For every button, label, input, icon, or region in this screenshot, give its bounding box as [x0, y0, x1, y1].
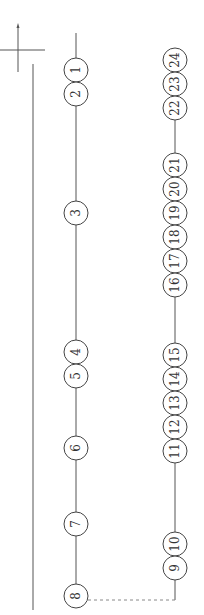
node-16: 16: [163, 273, 187, 297]
node-label: 18: [168, 229, 182, 244]
node-11: 11: [163, 439, 187, 463]
node-label: 5: [69, 372, 83, 380]
node-21: 21: [163, 153, 187, 177]
node-8: 8: [64, 584, 88, 608]
node-3: 3: [64, 201, 88, 225]
node-label: 15: [168, 347, 182, 362]
node-label: 4: [69, 348, 83, 356]
node-label: 6: [69, 444, 83, 452]
node-12: 12: [163, 415, 187, 439]
node-24: 24: [163, 48, 187, 72]
node-label: 10: [168, 536, 182, 551]
node-label: 2: [69, 90, 83, 98]
node-6: 6: [64, 436, 88, 460]
node-label: 12: [168, 419, 182, 434]
diagram-canvas: 12345678 2423222120191817161514131211109: [0, 0, 204, 615]
node-19: 19: [163, 201, 187, 225]
node-2: 2: [64, 82, 88, 106]
node-22: 22: [163, 96, 187, 120]
node-5: 5: [64, 364, 88, 388]
node-4: 4: [64, 340, 88, 364]
node-label: 14: [168, 371, 182, 387]
node-label: 16: [168, 277, 182, 292]
node-label: 3: [69, 209, 83, 217]
node-10: 10: [163, 532, 187, 556]
arrow-up-icon: [17, 23, 20, 28]
node-9: 9: [163, 556, 187, 580]
node-label: 21: [168, 157, 182, 172]
node-7: 7: [64, 512, 88, 536]
node-14: 14: [163, 367, 187, 391]
node-18: 18: [163, 225, 187, 249]
node-label: 9: [168, 564, 182, 572]
node-label: 17: [168, 253, 182, 268]
node-label: 8: [69, 592, 83, 600]
node-label: 24: [168, 52, 182, 68]
node-label: 19: [168, 205, 182, 220]
node-label: 1: [69, 66, 83, 74]
node-23: 23: [163, 72, 187, 96]
node-label: 22: [168, 100, 182, 115]
node-label: 20: [168, 181, 182, 196]
node-1: 1: [64, 58, 88, 82]
node-13: 13: [163, 391, 187, 415]
node-label: 13: [168, 395, 182, 410]
node-17: 17: [163, 249, 187, 273]
node-label: 7: [69, 520, 83, 528]
node-label: 23: [168, 76, 182, 91]
node-label: 11: [168, 443, 182, 458]
node-15: 15: [163, 343, 187, 367]
node-20: 20: [163, 177, 187, 201]
axis-marker: [0, 23, 45, 72]
